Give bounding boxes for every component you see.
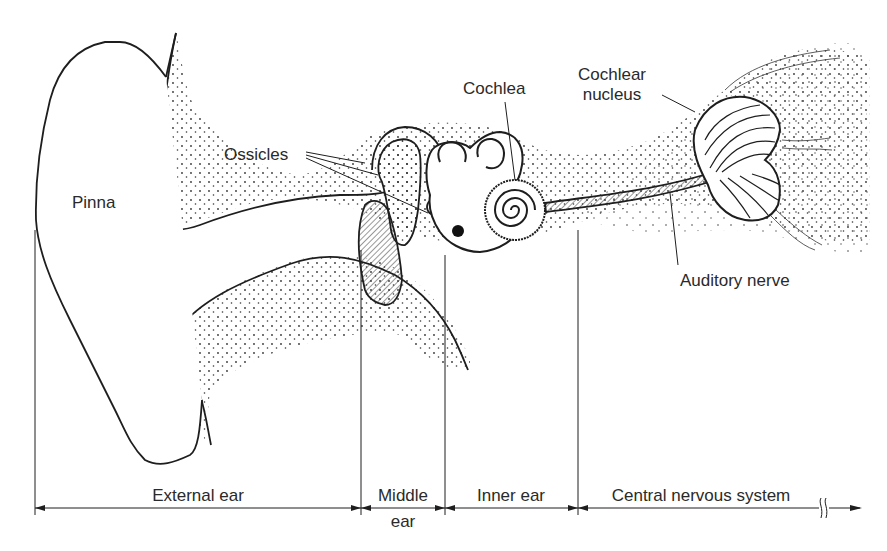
lower-tissue-stipple (176, 255, 470, 445)
region-label-inner-ear: Inner ear (477, 487, 545, 504)
label-cochlear-nucleus-line1: Cochlear (578, 66, 646, 83)
label-pinna: Pinna (72, 194, 115, 211)
region-label-middle-ear-line1: Middle (378, 487, 428, 504)
label-ossicles: Ossicles (224, 146, 288, 163)
label-cochlea: Cochlea (463, 80, 525, 97)
ear-diagram: Pinna Ossicles Cochlea Cochlear nucleus … (0, 0, 887, 551)
region-label-external-ear: External ear (152, 487, 244, 504)
region-label-central-nervous-system: Central nervous system (612, 487, 791, 504)
label-auditory-nerve: Auditory nerve (680, 272, 790, 289)
region-label-middle-ear-line2: ear (391, 513, 416, 530)
label-cochlear-nucleus-line2: nucleus (583, 86, 642, 103)
cochlea-spiral (485, 180, 545, 240)
